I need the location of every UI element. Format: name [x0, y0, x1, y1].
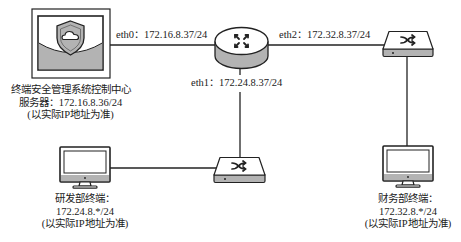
- monitor-rd-node: [60, 147, 110, 188]
- rd-terminal-title: 研发部终端：: [35, 193, 135, 206]
- rd-terminal-caption: 研发部终端： 172.24.8.*/24 (以实际IP地址为准): [35, 193, 135, 231]
- server-caption-note: (以实际IP地址为准): [0, 109, 141, 122]
- monitor-rd-screen: [64, 151, 106, 173]
- server-caption: 终端安全管理系统控制中心 服务器：172.16.8.36/24 (以实际IP地址…: [0, 84, 141, 122]
- finance-terminal-title: 财务部终端：: [358, 193, 458, 206]
- rd-terminal-subnet: 172.24.8.*/24: [35, 206, 135, 219]
- server-node: [32, 9, 110, 78]
- switch-top-node: [383, 32, 433, 57]
- router-top: [215, 28, 268, 55]
- eth2-label: eth2：172.32.8.37/24: [279, 29, 370, 41]
- finance-terminal-note: (以实际IP地址为准): [358, 218, 458, 231]
- switch-bottom-node: [214, 158, 265, 183]
- eth0-label: eth0：172.16.8.37/24: [116, 29, 207, 41]
- monitor-finance-node: [383, 146, 433, 187]
- finance-terminal-subnet: 172.32.8.*/24: [358, 206, 458, 219]
- monitor-finance-screen: [387, 150, 429, 172]
- router-node: [215, 28, 268, 69]
- switch-top-base: [383, 49, 433, 57]
- finance-terminal-caption: 财务部终端： 172.32.8.*/24 (以实际IP地址为准): [358, 193, 458, 231]
- server-caption-ip: 服务器：172.16.8.36/24: [0, 97, 141, 110]
- server-caption-title: 终端安全管理系统控制中心: [0, 84, 141, 97]
- rd-terminal-note: (以实际IP地址为准): [35, 218, 135, 231]
- eth1-label: eth1：172.24.8.37/24: [191, 77, 282, 89]
- switch-bottom-base: [214, 175, 265, 183]
